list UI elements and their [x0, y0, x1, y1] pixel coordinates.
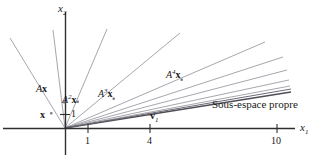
point-A4x: [181, 79, 183, 81]
ray-Ax: [53, 30, 65, 128]
label-A3x: A3x: [98, 88, 113, 99]
label-A4x: A4x: [166, 69, 181, 80]
label-v1: v1: [150, 111, 159, 124]
x-tick-label-4: 4: [147, 136, 152, 146]
label-Ax-vector: x: [42, 83, 47, 94]
ray-A3x: [65, 33, 180, 128]
x-tick-label-1: 1: [85, 136, 90, 146]
label-v1-sub: 1: [155, 116, 159, 124]
y-tick-label-1: 1: [71, 109, 76, 119]
x-axis-label-sub: 1: [305, 128, 309, 136]
label-x: x: [40, 110, 45, 120]
x-axis-label: x1: [300, 122, 308, 136]
label-A4x-vector: x: [176, 69, 181, 80]
label-A2x: A2x: [62, 94, 77, 105]
eigenspace-convergence-figure: x2 x1 1 4 10 1 x Ax A2x A3x A4x v1 Sous-…: [0, 0, 317, 161]
label-A2x-vector: x: [72, 94, 77, 105]
y-axis-label-sub: 2: [63, 9, 67, 17]
point-A2x: [77, 101, 79, 103]
point-x: [50, 112, 52, 114]
label-A3x-vector: x: [108, 88, 113, 99]
eigenspace-caption: Sous-espace propre: [212, 99, 298, 110]
point-A3x: [113, 98, 115, 100]
y-axis-label: x2: [58, 3, 66, 17]
figure-canvas: [0, 0, 317, 161]
x-tick-label-10: 10: [271, 136, 281, 146]
ray-A4x: [65, 42, 265, 128]
label-Ax: Ax: [36, 84, 47, 94]
